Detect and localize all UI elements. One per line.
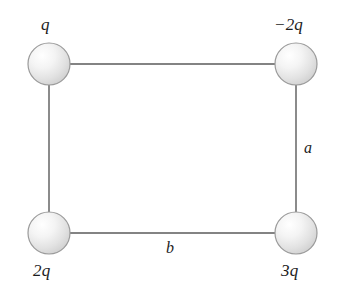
charge-label-top-left: q [41,16,50,33]
rectangle-edges [49,64,296,233]
charge-label-top-right: −2q [274,16,303,33]
charge-spheres [28,43,317,254]
charge-sphere-top-left [28,43,70,85]
charge-label-bottom-right: 3q [281,262,298,279]
charge-sphere-top-right [275,43,317,85]
side-label-a: a [304,140,312,156]
side-label-b: b [166,240,174,256]
charge-sphere-bottom-left [28,212,70,254]
charge-sphere-bottom-right [275,212,317,254]
charge-rectangle-diagram: q −2q 2q 3q a b [0,0,337,298]
charge-label-bottom-left: 2q [33,262,50,279]
